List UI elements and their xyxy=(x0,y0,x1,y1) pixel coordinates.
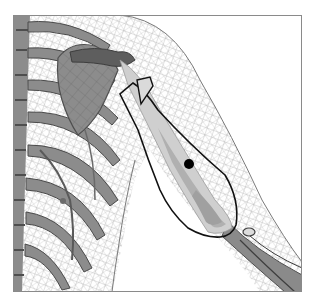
anatomy-illustration xyxy=(0,0,312,304)
marker-dot xyxy=(184,159,194,169)
